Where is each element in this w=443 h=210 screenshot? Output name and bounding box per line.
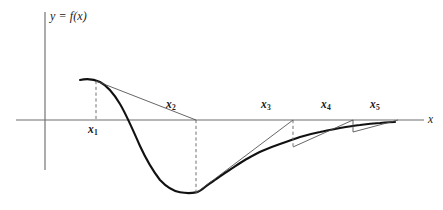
iteration-label-x1-base: x [88,123,94,135]
tangent-line-at-x2 [196,120,293,193]
function-label: y = f(x) [50,10,87,22]
figure-container: y = f(x) x x1 x2 x3 x4 x5 [0,0,443,210]
iteration-label-x1-sub: 1 [94,128,98,137]
iteration-label-x5-sub: 5 [376,103,380,112]
iteration-label-x2: x2 [166,99,176,111]
iteration-label-x3: x3 [261,99,271,111]
iteration-label-x1: x1 [88,124,98,136]
iteration-label-x5-base: x [370,98,376,110]
function-curve [80,79,395,193]
iteration-label-x3-sub: 3 [267,103,271,112]
iteration-label-x5: x5 [370,99,380,111]
iteration-label-x2-base: x [166,98,172,110]
tangent-line-at-x3 [293,120,353,147]
iteration-label-x3-base: x [261,98,267,110]
x-axis-label: x [428,114,433,126]
tangent-line-at-x1 [96,81,196,120]
iteration-label-x4-sub: 4 [327,103,331,112]
iteration-label-x2-sub: 2 [172,103,176,112]
iteration-label-x4: x4 [321,99,331,111]
iteration-label-x4-base: x [321,98,327,110]
